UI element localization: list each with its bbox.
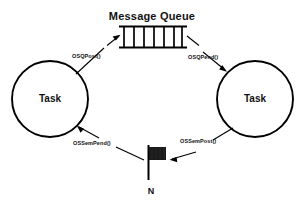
edge-label-ossem-pend: OSSemPend() xyxy=(73,140,111,146)
flag-icon xyxy=(149,145,167,180)
diagram-graphics xyxy=(0,0,303,208)
task-right-label: Task xyxy=(225,93,285,104)
edge-label-ossem-post: OSSemPost() xyxy=(180,138,216,144)
task-left-label: Task xyxy=(20,93,80,104)
edge-task-right-to-semaphore xyxy=(170,128,234,162)
message-queue-title: Message Queue xyxy=(108,10,196,22)
edge-label-osq-post: OSQPost() xyxy=(72,53,101,59)
diagram-canvas: Message Queue Task Task OSQPost() OSQPen… xyxy=(0,0,303,208)
edge-label-osq-pend: OSQPend() xyxy=(188,54,218,60)
semaphore-count-label: N xyxy=(139,186,163,196)
queue-icon xyxy=(119,27,187,48)
